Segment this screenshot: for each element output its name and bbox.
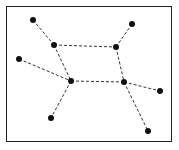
- graph-node: [145, 128, 151, 134]
- graph-node: [48, 115, 54, 121]
- graph-edge: [51, 81, 71, 118]
- graph-edge: [54, 45, 116, 47]
- graph-node: [16, 56, 22, 62]
- graph-edge: [116, 47, 124, 82]
- graph-node: [129, 21, 135, 27]
- graph-edge: [71, 81, 124, 82]
- graph-edge: [116, 24, 132, 47]
- graph-node: [121, 79, 127, 85]
- graph-node: [113, 44, 119, 50]
- graph-edge: [33, 20, 54, 45]
- graph-edge: [124, 82, 160, 91]
- graph-edge: [124, 82, 148, 131]
- graph-node: [157, 88, 163, 94]
- graph-node: [30, 17, 36, 23]
- graph-edge: [19, 59, 71, 81]
- graph-node: [68, 78, 74, 84]
- graph-node: [51, 42, 57, 48]
- graph-edge: [54, 45, 71, 81]
- graph-diagram: [0, 0, 179, 150]
